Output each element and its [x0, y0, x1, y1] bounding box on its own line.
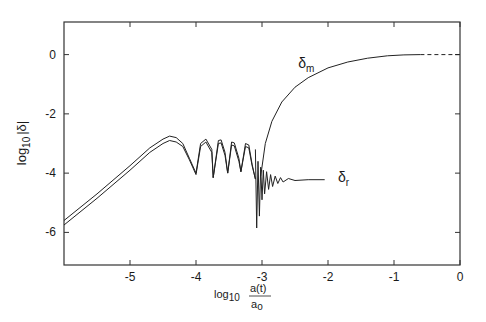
svg-text:log10: log10 — [214, 288, 240, 303]
x-tick-label: 0 — [457, 270, 464, 284]
svg-text:ao: ao — [251, 298, 263, 312]
svg-text:log10|δ|: log10|δ| — [14, 121, 32, 165]
chart: -5-4-3-2-10 0-2-4-6 δmδr log10|δ| log10 … — [0, 0, 486, 322]
x-tick-label: -2 — [323, 270, 334, 284]
plot-frame — [64, 22, 460, 265]
y-tick-label: -6 — [45, 225, 56, 239]
x-axis-ticks: -5-4-3-2-10 — [125, 22, 464, 284]
series--lower-branch-pre-recombination- — [64, 141, 255, 226]
curve-annotations: δmδr — [298, 55, 349, 188]
annotation-delta_r: δr — [338, 169, 350, 188]
annotation-delta_m: δm — [298, 55, 314, 74]
x-tick-label: -5 — [125, 270, 136, 284]
y-axis-label: log10|δ| — [14, 121, 32, 165]
y-tick-label: 0 — [49, 48, 56, 62]
series-delta-m — [261, 55, 421, 177]
x-label-numerator: a(t) — [250, 282, 267, 294]
y-tick-label: -4 — [45, 166, 56, 180]
data-series — [64, 55, 460, 228]
y-axis-ticks: 0-2-4-6 — [45, 48, 460, 240]
series--upper-branch-pre-recombination- — [64, 136, 255, 220]
y-tick-label: -2 — [45, 107, 56, 121]
x-axis-label: log10 a(t) ao — [214, 282, 271, 312]
x-tick-label: -1 — [389, 270, 400, 284]
x-tick-label: -4 — [191, 270, 202, 284]
series-delta-r — [255, 149, 324, 228]
